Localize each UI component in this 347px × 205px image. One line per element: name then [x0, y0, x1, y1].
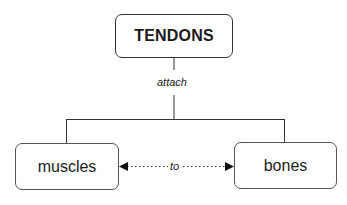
link-label-attach: attach: [155, 76, 189, 88]
node-tendons-label: TENDONS: [134, 27, 214, 45]
arrowhead-right-icon: [225, 162, 234, 171]
node-muscles: muscles: [15, 143, 119, 190]
node-muscles-label: muscles: [38, 158, 97, 176]
node-tendons: TENDONS: [115, 14, 233, 58]
link-label-to: to: [168, 160, 181, 172]
node-bones-label: bones: [264, 157, 308, 175]
node-bones: bones: [234, 142, 337, 189]
arrowhead-left-icon: [119, 162, 128, 171]
